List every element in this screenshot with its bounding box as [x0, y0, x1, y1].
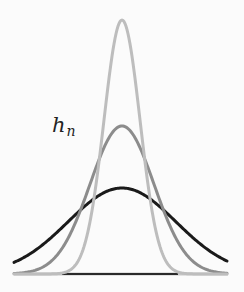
curve-narrow	[14, 20, 227, 274]
curve-medium	[14, 126, 227, 274]
curve-group	[14, 20, 227, 274]
curve-wide	[14, 188, 227, 262]
hn-label: hn	[52, 113, 76, 139]
label-main: h	[52, 113, 66, 137]
label-subscript: n	[67, 123, 76, 139]
gaussian-sequence-diagram	[0, 0, 244, 292]
